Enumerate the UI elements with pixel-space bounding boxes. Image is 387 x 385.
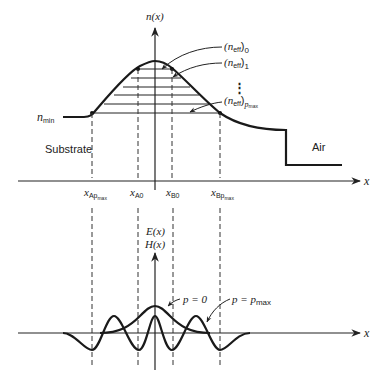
tick-x-a0: xA0: [129, 186, 144, 199]
refractive-index-plot: x n(x) nmin Substrate Air: [18, 10, 370, 190]
e-label: E(x): [145, 225, 165, 238]
leader-p0: [168, 299, 180, 306]
h-label: H(x): [144, 238, 165, 251]
pmax-label: p = pmax: [231, 293, 271, 307]
leader-pmax: [207, 299, 230, 322]
neff-0-label: (neff)0: [224, 40, 250, 55]
p0-label: p = 0: [182, 293, 207, 305]
graded-index-waveguide-diagram: x n(x) nmin Substrate Air: [0, 0, 387, 385]
top-y-axis-label: n(x): [146, 10, 164, 23]
field-profile-plot: x E(x) H(x) p = 0 p = pmax: [18, 225, 370, 370]
neff-pmax-label: (neff)pmax: [224, 94, 258, 109]
neff-1-label: (neff)1: [224, 56, 250, 71]
bottom-x-axis-label: x: [363, 326, 370, 340]
n-min-label: nmin: [37, 110, 54, 124]
x-tick-labels: xApmax xA0 xB0 xBpmax: [83, 186, 234, 201]
top-x-axis-label: x: [363, 174, 370, 188]
leader-neff-0: [162, 47, 222, 69]
tick-x-bpmax: xBpmax: [210, 186, 234, 201]
tick-x-apmax: xApmax: [83, 186, 107, 201]
tick-x-b0: xB0: [165, 186, 180, 199]
ellipsis: ⋮: [233, 80, 246, 95]
substrate-label: Substrate: [45, 143, 92, 155]
air-label: Air: [312, 141, 326, 153]
